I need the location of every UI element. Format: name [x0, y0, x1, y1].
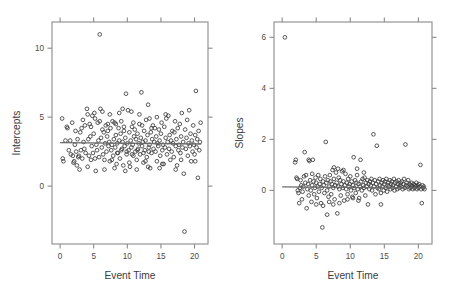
- data-point: [85, 107, 89, 111]
- data-point: [154, 135, 158, 139]
- data-point: [158, 139, 162, 143]
- data-point: [115, 162, 119, 166]
- x-tick-label: 5: [314, 252, 319, 261]
- data-point: [86, 113, 90, 117]
- data-point: [145, 155, 149, 159]
- data-point: [283, 35, 287, 39]
- data-point: [310, 172, 314, 176]
- data-point: [348, 175, 352, 179]
- data-point: [197, 129, 201, 133]
- data-point: [114, 133, 118, 137]
- scatter-plot-intercepts: 05101520 0510 Event Time Intercepts: [0, 0, 229, 294]
- data-point: [60, 117, 64, 121]
- x-tick-label: 0: [58, 252, 63, 261]
- data-point: [165, 153, 169, 157]
- data-point: [81, 118, 85, 122]
- ytick-labels-slopes: 0246: [261, 33, 266, 195]
- plot-frame-slopes: [274, 22, 432, 244]
- data-point: [155, 159, 159, 163]
- data-point: [344, 172, 348, 176]
- data-point: [74, 129, 78, 133]
- x-tick-label: 20: [414, 252, 424, 261]
- data-point: [124, 92, 128, 96]
- data-point: [74, 150, 78, 154]
- data-point: [179, 158, 183, 162]
- data-point: [352, 155, 356, 159]
- data-point: [80, 157, 84, 161]
- y-tick-label: 0: [39, 182, 44, 191]
- data-point: [146, 103, 150, 107]
- data-point: [91, 151, 95, 155]
- x-tick-label: 15: [380, 252, 390, 261]
- x-axis-label-intercepts: Event Time: [105, 270, 156, 281]
- data-point: [193, 159, 197, 163]
- data-point: [297, 201, 301, 205]
- data-point: [113, 146, 117, 150]
- x-tick-label: 0: [280, 252, 285, 261]
- data-point: [80, 126, 84, 130]
- data-point: [318, 182, 322, 186]
- data-point: [197, 148, 201, 152]
- data-point: [83, 124, 87, 128]
- data-point: [170, 150, 174, 154]
- data-point: [193, 153, 197, 157]
- figure-container: 05101520 0510 Event Time Intercepts 0510…: [0, 0, 458, 294]
- data-point: [199, 121, 203, 125]
- data-point: [355, 167, 359, 171]
- data-point: [315, 196, 319, 200]
- data-point: [189, 132, 193, 136]
- x-axis-label-slopes: Event Time: [328, 270, 379, 281]
- data-point: [183, 128, 187, 132]
- data-point: [122, 125, 126, 129]
- y-tick-label: 2: [261, 135, 266, 144]
- data-point: [149, 130, 153, 134]
- data-point: [162, 125, 166, 129]
- x-tick-label: 20: [190, 252, 200, 261]
- data-point: [103, 158, 107, 162]
- data-point: [299, 178, 303, 182]
- data-point: [146, 133, 150, 137]
- data-point: [331, 203, 335, 207]
- data-point: [359, 158, 363, 162]
- data-point: [119, 132, 123, 136]
- trend-line-slopes: [282, 187, 425, 188]
- data-point: [332, 177, 336, 181]
- y-tick-label: 5: [39, 113, 44, 122]
- data-point: [154, 150, 158, 154]
- data-point: [99, 136, 103, 140]
- data-point: [183, 230, 187, 234]
- data-point: [333, 197, 337, 201]
- data-point: [100, 146, 104, 150]
- data-point: [334, 171, 338, 175]
- data-point: [324, 140, 328, 144]
- data-point: [133, 128, 137, 132]
- data-point: [113, 166, 117, 170]
- data-point: [118, 157, 122, 161]
- xtick-labels-slopes: 05101520: [280, 252, 423, 261]
- data-point: [187, 108, 191, 112]
- data-point: [155, 115, 159, 119]
- data-point: [385, 190, 389, 194]
- data-point: [132, 121, 136, 125]
- data-point: [182, 172, 186, 176]
- data-point: [117, 126, 121, 130]
- data-point: [136, 132, 140, 136]
- data-point: [139, 136, 143, 140]
- data-point: [94, 169, 98, 173]
- data-point: [112, 137, 116, 141]
- data-point: [185, 118, 189, 122]
- data-point: [346, 192, 350, 196]
- data-point: [354, 191, 358, 195]
- data-point: [97, 155, 101, 159]
- data-point: [175, 137, 179, 141]
- data-point: [305, 206, 309, 210]
- data-point: [121, 107, 125, 111]
- data-point: [127, 130, 131, 134]
- data-point: [86, 165, 90, 169]
- data-point: [138, 113, 142, 117]
- data-point: [123, 169, 127, 173]
- data-point: [404, 143, 408, 147]
- ytick-marks-slopes: [270, 37, 437, 190]
- data-point: [68, 139, 72, 143]
- data-point: [180, 111, 184, 115]
